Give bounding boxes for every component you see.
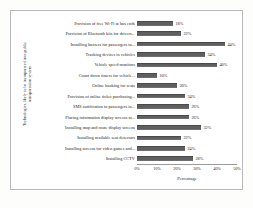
x-tick-label: 20% — [173, 166, 181, 171]
bar — [137, 52, 205, 57]
category-label: Tracking devices in vehicles — [86, 52, 135, 57]
bar-value-label: 34% — [207, 52, 215, 57]
bar — [137, 104, 189, 109]
category-label-row: Installing map and route display screens — [25, 122, 135, 132]
bar-row: 40% — [137, 60, 237, 70]
bar-row: 20% — [137, 81, 237, 91]
x-tick-label: 50% — [233, 166, 241, 171]
bar-row: 34% — [137, 49, 237, 59]
bar — [137, 42, 225, 47]
bar-value-label: 22% — [183, 135, 191, 140]
chart-figure: Technologies likely to be incorporated i… — [0, 0, 253, 208]
bars-panel: 18%22%44%34%40%10%20%24%26%26%32%22%24%2… — [137, 18, 237, 164]
category-label-row: Installing CCTV — [25, 153, 135, 163]
bar-row: 18% — [137, 18, 237, 28]
category-label-row: Installing screens for video games and..… — [25, 143, 135, 153]
bar — [137, 125, 201, 130]
x-axis-line — [137, 164, 237, 165]
bar-value-label: 44% — [227, 42, 235, 47]
bar-value-label: 10% — [159, 73, 167, 78]
x-tick-label: 0% — [134, 166, 140, 171]
bar — [137, 21, 173, 26]
bar-value-label: 28% — [195, 156, 203, 161]
category-label: Provision of online ticket purchasing... — [67, 94, 135, 99]
category-label: Online booking for seats — [92, 83, 135, 88]
bar-value-label: 22% — [183, 31, 191, 36]
bar-row: 26% — [137, 101, 237, 111]
category-label-row: Tracking devices in vehicles — [25, 49, 135, 59]
bar — [137, 63, 217, 68]
category-label-row: Installing buzzers for passengers to... — [25, 39, 135, 49]
bar — [137, 156, 193, 161]
bar-row: 10% — [137, 70, 237, 80]
bar — [137, 31, 181, 36]
category-label: Count down timers for vehicle... — [79, 73, 135, 78]
category-label-row: Vehicle speed monitors — [25, 60, 135, 70]
category-labels: Provision of free Wi-Fi at bus endsProvi… — [25, 18, 135, 164]
category-label: Provision of Bluetooth kits for drivers.… — [65, 31, 135, 36]
bar-value-label: 18% — [175, 21, 183, 26]
category-label-row: Provision of free Wi-Fi at bus ends — [25, 18, 135, 28]
bar-row: 22% — [137, 28, 237, 38]
category-label: Installing map and route display screens — [65, 125, 135, 130]
bar-row: 44% — [137, 39, 237, 49]
bar-value-label: 32% — [203, 125, 211, 130]
bar-row: 24% — [137, 91, 237, 101]
category-label: Installing screens for video games and..… — [65, 146, 135, 151]
chart-plot-frame: Technologies likely to be incorporated i… — [10, 10, 243, 190]
bar — [137, 83, 177, 88]
category-label-row: Provision of online ticket purchasing... — [25, 91, 135, 101]
category-label: SMS notification to passengers in... — [73, 104, 135, 109]
x-axis-title: Percentage — [137, 176, 237, 181]
x-axis-ticks: 0%10%20%30%40%50% — [137, 166, 237, 174]
bar-value-label: 24% — [187, 146, 195, 151]
bar-value-label: 26% — [191, 104, 199, 109]
category-label-row: Placing information display screens at..… — [25, 112, 135, 122]
bar-row: 24% — [137, 143, 237, 153]
bar-row: 28% — [137, 153, 237, 163]
bar-value-label: 40% — [219, 62, 227, 67]
bar-value-label: 26% — [191, 115, 199, 120]
bar-value-label: 24% — [187, 94, 195, 99]
bar-row: 22% — [137, 133, 237, 143]
x-tick-label: 10% — [153, 166, 161, 171]
bar — [137, 146, 185, 151]
x-tick-label: 40% — [213, 166, 221, 171]
category-label-row: Provision of Bluetooth kits for drivers.… — [25, 28, 135, 38]
category-label: Installing buzzers for passengers to... — [70, 42, 135, 47]
bar — [137, 73, 157, 78]
category-label-row: Installing available seat detectors — [25, 133, 135, 143]
bar-row: 26% — [137, 112, 237, 122]
bar-row: 32% — [137, 122, 237, 132]
category-label-row: Count down timers for vehicle... — [25, 70, 135, 80]
bar — [137, 115, 189, 120]
chart-area: Technologies likely to be incorporated i… — [11, 11, 244, 191]
category-label-row: Online booking for seats — [25, 81, 135, 91]
category-label: Installing CCTV — [106, 156, 135, 161]
category-label-row: SMS notification to passengers in... — [25, 101, 135, 111]
bar-value-label: 20% — [179, 83, 187, 88]
bar — [137, 136, 181, 141]
category-label: Installing available seat detectors — [77, 135, 135, 140]
category-label: Vehicle speed monitors — [94, 62, 135, 67]
x-tick-label: 30% — [193, 166, 201, 171]
category-label: Placing information display screens at..… — [65, 115, 135, 120]
bar — [137, 94, 185, 99]
category-label: Provision of free Wi-Fi at bus ends — [74, 21, 135, 26]
